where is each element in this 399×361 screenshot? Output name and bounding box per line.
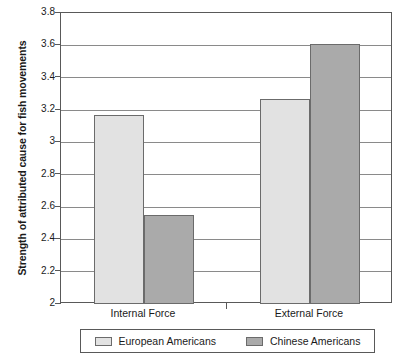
bar-internal-force-european-americans[interactable] (94, 115, 144, 304)
y-axis-tick-labels: 3.83.63.43.232.82.62.42.22 (27, 0, 55, 361)
legend-label: European Americans (119, 335, 216, 347)
legend-item-chinese-americans[interactable]: Chinese Americans (246, 335, 360, 347)
y-axis-tick-label: 2.4 (29, 233, 55, 243)
legend-item-european-americans[interactable]: European Americans (95, 335, 216, 347)
y-axis-tick-mark (55, 270, 61, 271)
y-axis-tick-label: 3 (29, 136, 55, 146)
y-axis-tick-mark (55, 141, 61, 142)
x-axis-tick-label: External Force (249, 306, 369, 320)
x-axis-tick-label: Internal Force (83, 306, 203, 320)
y-axis-tick-mark (55, 44, 61, 45)
y-axis-tick-label: 2.2 (29, 266, 55, 276)
legend-swatch-icon (246, 337, 263, 346)
y-axis-tick-label: 2.8 (29, 169, 55, 179)
y-axis-tick-label: 3.8 (29, 7, 55, 17)
y-axis-tick-label: 2.6 (29, 201, 55, 211)
bar-external-force-chinese-americans[interactable] (310, 44, 360, 304)
y-axis-tick-label: 2 (29, 298, 55, 308)
bar-external-force-european-americans[interactable] (260, 99, 310, 304)
legend-label: Chinese Americans (270, 335, 360, 347)
x-axis-center-tick (226, 303, 227, 309)
y-axis-tick-mark (55, 206, 61, 207)
y-axis-tick-mark (55, 109, 61, 110)
bar-chart-figure: Strength of attributed cause for fish mo… (0, 0, 399, 361)
y-axis-tick-label: 3.2 (29, 104, 55, 114)
legend-swatch-icon (95, 337, 112, 346)
y-axis-tick-mark (55, 12, 61, 13)
y-axis-tick-label: 3.4 (29, 72, 55, 82)
y-axis-tick-mark (55, 303, 61, 304)
bar-internal-force-chinese-americans[interactable] (144, 215, 194, 304)
plot-area (60, 12, 392, 303)
y-axis-tick-mark (55, 238, 61, 239)
y-axis-tick-mark (55, 173, 61, 174)
y-axis-tick-mark (55, 76, 61, 77)
y-axis-tick-label: 3.6 (29, 39, 55, 49)
chart-legend: European AmericansChinese Americans (80, 329, 375, 353)
